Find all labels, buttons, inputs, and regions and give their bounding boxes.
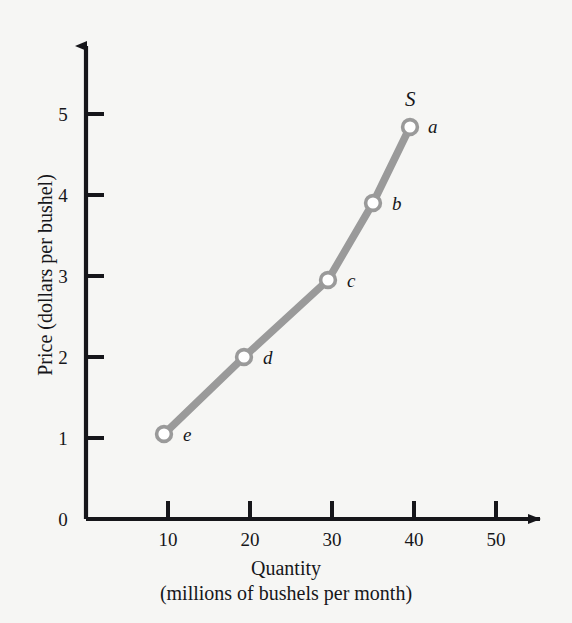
data-point-d[interactable]: [237, 350, 252, 365]
x-axis-title: Quantity (millions of bushels per month): [0, 556, 572, 606]
supply-curve-figure: 0 1 2 3 4 5 10 20 30 40 50 S a b c d e Q…: [0, 0, 572, 623]
supply-curve-label: S: [405, 89, 416, 110]
x-tick-label-40: 40: [394, 530, 434, 549]
x-tick-label-50: 50: [476, 530, 516, 549]
data-point-a[interactable]: [403, 120, 418, 135]
data-point-e[interactable]: [157, 427, 172, 442]
y-tick-label-5: 5: [52, 105, 74, 124]
data-point-b[interactable]: [366, 196, 381, 211]
y-axis-title: Price (dollars per bushel): [35, 110, 55, 440]
point-label-b: b: [392, 194, 402, 213]
point-label-a: a: [428, 117, 438, 136]
x-tick-label-30: 30: [312, 530, 352, 549]
point-label-d: d: [263, 348, 273, 367]
x-axis-title-sub: (millions of bushels per month): [0, 581, 572, 606]
point-label-e: e: [183, 425, 191, 444]
supply-curve-line: [164, 127, 410, 434]
data-point-c[interactable]: [321, 273, 336, 288]
y-tick-label-1: 1: [52, 429, 74, 448]
point-label-c: c: [347, 271, 355, 290]
y-axis-ticks: [86, 114, 104, 438]
x-axis-ticks: [168, 501, 496, 519]
x-tick-label-20: 20: [230, 530, 270, 549]
x-tick-label-10: 10: [148, 530, 188, 549]
data-point-markers: [157, 120, 418, 442]
y-tick-label-0: 0: [52, 510, 74, 529]
x-axis-title-main: Quantity: [0, 556, 572, 581]
